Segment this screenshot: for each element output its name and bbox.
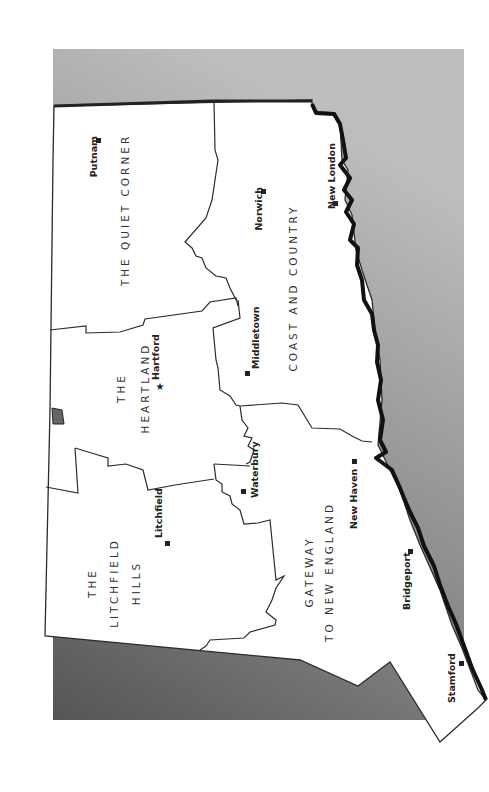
svg-text:Stamford: Stamford (446, 653, 457, 703)
city-new-london: New London (326, 143, 338, 209)
city-square-icon (245, 371, 250, 376)
svg-text:Middletown: Middletown (250, 306, 261, 369)
city-square-icon (352, 459, 357, 464)
svg-text:HILLS: HILLS (130, 561, 142, 605)
svg-text:Hartford: Hartford (150, 334, 161, 380)
region-label-coast-and-country: COAST AND COUNTRY (287, 204, 299, 371)
city-square-icon (165, 541, 170, 546)
connecticut-regions-map: THE QUIET CORNER COAST AND COUNTRY THE H… (0, 0, 489, 792)
svg-text:Litchfield: Litchfield (153, 488, 164, 538)
capital-star-icon: ★ (156, 381, 165, 392)
svg-text:THE QUIET CORNER: THE QUIET CORNER (119, 134, 131, 287)
svg-text:THE: THE (86, 568, 98, 599)
svg-text:Waterbury: Waterbury (249, 441, 260, 498)
svg-text:THE: THE (115, 373, 127, 404)
shaded-enclave (52, 408, 64, 424)
svg-text:New Haven: New Haven (348, 469, 359, 529)
city-square-icon (241, 489, 246, 494)
svg-text:GATEWAY: GATEWAY (303, 536, 315, 607)
svg-text:Norwich: Norwich (253, 187, 264, 231)
svg-text:New London: New London (326, 143, 337, 209)
svg-text:COAST AND COUNTRY: COAST AND COUNTRY (287, 204, 299, 371)
svg-text:Bridgeport: Bridgeport (401, 552, 412, 610)
city-bridgeport: Bridgeport (401, 549, 413, 610)
city-new-haven: New Haven (348, 459, 359, 529)
svg-text:LITCHFIELD: LITCHFIELD (108, 538, 120, 628)
svg-text:TO NEW ENGLAND: TO NEW ENGLAND (323, 502, 335, 643)
svg-text:Putnam: Putnam (88, 136, 99, 177)
city-square-icon (459, 661, 464, 666)
region-label-quiet-corner: THE QUIET CORNER (119, 134, 131, 287)
